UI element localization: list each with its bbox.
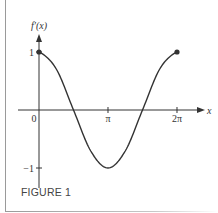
start-point bbox=[36, 49, 41, 54]
y-axis-label: f′(x) bbox=[31, 20, 48, 32]
labels: xf′(x)0π2π1−1 bbox=[23, 20, 212, 174]
x-axis-label: x bbox=[206, 105, 212, 116]
x-axis-arrow bbox=[197, 107, 205, 113]
y-tick-label: −1 bbox=[23, 163, 34, 174]
end-point bbox=[174, 49, 179, 54]
x-tick-label: 2π bbox=[172, 113, 182, 124]
x-tick-label: π bbox=[105, 113, 110, 124]
chart: xf′(x)0π2π1−1 bbox=[0, 0, 218, 213]
y-axis-arrow bbox=[36, 34, 42, 42]
figure-caption: FIGURE 1 bbox=[21, 186, 71, 198]
x-tick-label: 0 bbox=[32, 113, 37, 124]
y-tick-label: 1 bbox=[29, 47, 34, 58]
